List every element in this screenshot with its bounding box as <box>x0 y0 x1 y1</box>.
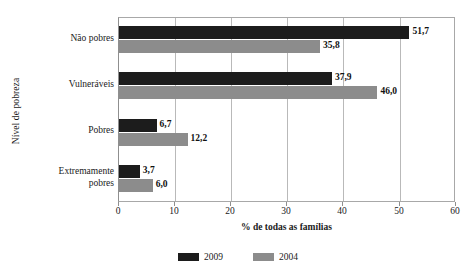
bar-group-nao-pobres: 51,7 35,8 <box>119 18 454 64</box>
x-axis-title: % de todas as famílias <box>118 222 455 232</box>
category-label-extremamente-pobres: Extremamente pobres <box>0 166 114 189</box>
category-label-pobres: Pobres <box>0 125 114 137</box>
bar-2004-nao-pobres <box>119 40 320 53</box>
category-label-nao-pobres: Não pobres <box>0 33 114 45</box>
category-label-line: Vulneráveis <box>0 79 114 91</box>
x-tick-label-60: 60 <box>435 206 475 216</box>
bar-value-2004-pobres: 12,2 <box>188 132 208 145</box>
category-label-vulneraveis: Vulneráveis <box>0 79 114 91</box>
legend-swatch-icon-2009 <box>178 253 199 261</box>
legend-swatch-icon-2004 <box>253 253 274 261</box>
chart-legend: 2009 2004 <box>0 252 476 262</box>
bar-value-2004-nao-pobres: 35,8 <box>320 39 340 52</box>
x-tick-label-40: 40 <box>322 206 362 216</box>
bar-chart: Nível de pobreza Não pobres Vulneráveis … <box>0 0 476 276</box>
bar-group-pobres: 6,7 12,2 <box>119 111 454 157</box>
legend-item-2004: 2004 <box>253 252 298 262</box>
bar-group-vulneraveis: 37,9 46,0 <box>119 64 454 110</box>
plot-area: 51,7 35,8 37,9 46,0 6,7 12,2 3,7 6,0 <box>118 17 455 202</box>
legend-label-2004: 2004 <box>279 252 298 262</box>
x-tick-label-30: 30 <box>266 206 306 216</box>
x-tick-label-50: 50 <box>379 206 419 216</box>
bar-value-2009-extremamente-pobres: 3,7 <box>140 164 155 177</box>
bar-value-2004-vulneraveis: 46,0 <box>377 85 397 98</box>
category-label-line: Pobres <box>0 125 114 137</box>
bar-2004-extremamente-pobres <box>119 179 153 192</box>
category-label-line: Extremamente <box>0 166 114 178</box>
bar-2009-nao-pobres <box>119 26 409 39</box>
bar-2004-vulneraveis <box>119 86 377 99</box>
category-label-line: Não pobres <box>0 33 114 45</box>
x-tick-label-0: 0 <box>98 206 138 216</box>
bar-value-2009-pobres: 6,7 <box>157 118 172 131</box>
bar-value-2004-extremamente-pobres: 6,0 <box>153 178 168 191</box>
category-label-line: pobres <box>0 178 114 190</box>
bar-2009-pobres <box>119 119 157 132</box>
x-tick-label-10: 10 <box>154 206 194 216</box>
bar-value-2009-vulneraveis: 37,9 <box>332 71 352 84</box>
y-axis-title: Nível de pobreza <box>11 46 21 176</box>
bar-2009-vulneraveis <box>119 72 332 85</box>
bar-2009-extremamente-pobres <box>119 165 140 178</box>
bar-value-2009-nao-pobres: 51,7 <box>409 25 429 38</box>
bar-group-extremamente-pobres: 3,7 6,0 <box>119 157 454 203</box>
legend-label-2009: 2009 <box>204 252 223 262</box>
bar-2004-pobres <box>119 133 188 146</box>
x-tick-label-20: 20 <box>210 206 250 216</box>
legend-item-2009: 2009 <box>178 252 223 262</box>
